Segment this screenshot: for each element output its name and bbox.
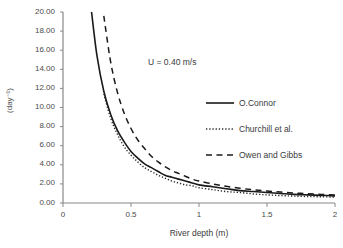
legend-swatch-solid-icon [205,98,235,108]
y-tick-label: 8.00 [21,122,55,130]
x-tick-label: 0 [48,211,78,219]
y-tick-label: 0.00 [21,199,55,207]
y-tick-label: 16.00 [21,46,55,54]
y-tick-label: 10.00 [21,103,55,111]
y-tick-label: 20.00 [21,8,55,16]
legend-label-oconnor: O.Connor [239,98,276,108]
legend-item-oconnor: O.Connor [205,96,276,110]
x-tick-label: 1 [184,211,214,219]
legend-label-churchill: Churchill et al. [239,124,293,134]
y-tick-label: 6.00 [21,141,55,149]
velocity-annotation: U = 0.40 m/s [148,57,196,67]
x-tick-label: 1.5 [252,211,282,219]
legend-label-owen-gibbs: Owen and Gibbs [239,150,302,160]
y-tick-label: 14.00 [21,65,55,73]
y-axis-title: (day⁻¹) [5,78,14,124]
x-tick-label: 0.5 [116,211,146,219]
x-axis-ticks [63,203,335,207]
x-axis-title: River depth (m) [63,228,335,238]
y-tick-label: 18.00 [21,27,55,35]
reaeration-coefficient-chart: 0.002.004.006.008.0010.0012.0014.0016.00… [0,0,343,248]
y-tick-label: 4.00 [21,160,55,168]
x-tick-label: 2 [320,211,343,219]
legend-item-churchill: Churchill et al. [205,122,293,136]
legend-swatch-dashed-icon [205,150,235,160]
y-tick-label: 2.00 [21,179,55,187]
legend-swatch-dotted-icon [205,124,235,134]
legend-item-owen-gibbs: Owen and Gibbs [205,148,302,162]
y-tick-label: 12.00 [21,84,55,92]
